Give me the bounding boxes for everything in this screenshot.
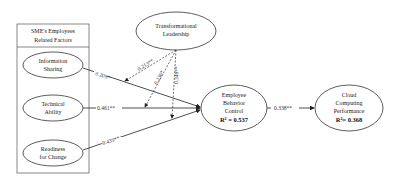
label-tech-to-ebc: 0.461** (97, 105, 115, 111)
tl-line2: Leadership (163, 31, 190, 37)
tl-line1: Transformational (155, 23, 197, 29)
ebc-line2: Behavior (223, 100, 245, 106)
ccp-line1: Cloud (342, 92, 357, 98)
node-readiness-for-change: Readiness for Change (23, 140, 83, 166)
ccp-line3: Performance (334, 108, 365, 114)
node-information-sharing: Information Sharing (23, 52, 83, 78)
moderation-tl-info (125, 50, 176, 81)
information-sharing-line1: Information (39, 58, 68, 64)
group-title-line1: SME's Employees (31, 28, 76, 34)
ccp-r2: R²= 0.368 (336, 116, 363, 123)
group-title-line2: Related Factors (34, 37, 72, 43)
technical-ability-line1: Technical (41, 101, 65, 107)
readiness-line2: for Change (40, 154, 67, 160)
node-technical-ability: Technical Ability (23, 95, 83, 121)
ebc-line1: Employee (222, 92, 247, 98)
node-employee-behavior-control: Employee Behavior Control R² = 0.537 (201, 85, 267, 131)
path-rfc-to-ebc (83, 110, 200, 150)
ccp-line2: Computing (335, 100, 362, 106)
label-ebc-to-ccp: 0.338** (274, 105, 292, 111)
node-cloud-computing-performance: Cloud Computing Performance R²= 0.368 (315, 85, 383, 131)
label-tl-mod-tech: 0.236* (153, 69, 166, 85)
ebc-line3: Control (225, 108, 244, 114)
node-transformational-leadership: Transformational Leadership (136, 12, 216, 50)
structural-model-diagram: SME's Employees Related Factors Informat… (0, 0, 406, 183)
ebc-r2: R² = 0.537 (220, 116, 249, 123)
readiness-line1: Readiness (41, 146, 66, 152)
label-tl-mod-rfc: 0.349** (173, 66, 180, 84)
label-tl-mod-info: 0.213** (136, 57, 155, 72)
technical-ability-line2: Ability (44, 109, 61, 115)
information-sharing-line2: Sharing (44, 66, 63, 72)
